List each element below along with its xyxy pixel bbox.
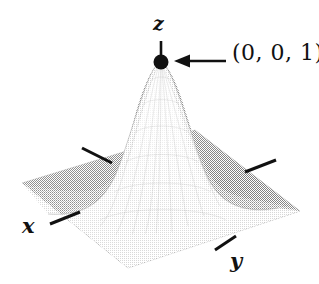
gaussian-surface-figure: z x y (0, 0, 1): [0, 0, 319, 284]
peak-dot-icon: [154, 55, 169, 70]
axis-label-y: y: [230, 250, 242, 271]
callout-arrow-icon: [174, 55, 226, 68]
peak-marker-group: [154, 41, 169, 70]
tick-right-ridge-icon: [245, 160, 276, 172]
axis-label-x: x: [22, 215, 35, 236]
bell-surface: [22, 62, 300, 268]
axis-label-z: z: [153, 14, 164, 33]
callout-arrow-head: [174, 55, 190, 68]
peak-coordinate-label: (0, 0, 1): [232, 42, 319, 64]
